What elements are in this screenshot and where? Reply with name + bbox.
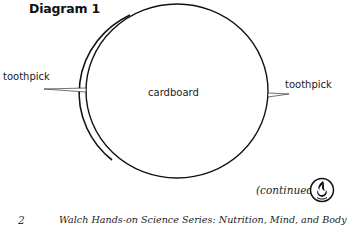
cardboard-label: cardboard — [148, 87, 199, 98]
toothpick-left — [44, 88, 86, 92]
toothpick-label-right: toothpick — [285, 79, 332, 90]
page-number: 2 — [18, 214, 25, 226]
toothpick-label-left: toothpick — [3, 71, 50, 82]
footer-series-title: Walch Hands-on Science Series: Nutrition… — [59, 214, 347, 225]
cardboard-circle-left-arc — [79, 15, 130, 160]
diagram-figure — [0, 0, 342, 200]
flame-logo-icon — [309, 177, 335, 203]
toothpick-right — [268, 93, 289, 97]
